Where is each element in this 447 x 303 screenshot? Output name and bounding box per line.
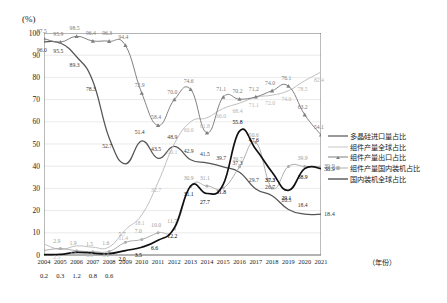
marker-dot-3-6 (140, 238, 143, 241)
data-label-4-16: 38.9 (298, 175, 308, 181)
data-label-4-9: 31.1 (184, 192, 194, 198)
series-line-4 (44, 129, 321, 254)
data-label-3-2: 1.9 (70, 241, 77, 247)
series-line-1 (44, 72, 321, 249)
x-tick-2021: 2021 (310, 258, 332, 265)
chart-root: (%) 0102030405060708090100 2004200520062… (0, 0, 447, 303)
data-label-0-0: 96.0 (37, 48, 47, 54)
legend-item-3[interactable]: 组件产量国内装机占比 (327, 163, 445, 174)
data-label-4-14: 37.3 (265, 178, 275, 184)
marker-dot-3-15 (287, 165, 290, 168)
data-label-1-12: 68.4 (233, 109, 243, 115)
data-label-0-13: 29.7 (249, 178, 259, 184)
data-label-3-3: 1.5 (86, 242, 93, 248)
data-label-3-4: 1.6 (102, 241, 109, 247)
legend-item-4[interactable]: 国内装机全球占比 (327, 173, 445, 184)
data-label-2-0: 97.5 (37, 29, 47, 35)
data-label-4-11: 31.8 (216, 190, 226, 196)
data-label-3-16: 39.9 (298, 156, 308, 162)
data-label-1-8: 50.1 (167, 150, 177, 156)
y-tick-50: 50 (24, 140, 40, 149)
data-label-2-15: 76.1 (281, 76, 291, 82)
data-label-1-17: 82.4 (314, 78, 324, 84)
data-label-1-13: 71.1 (249, 103, 259, 109)
data-label-2-6: 72.9 (135, 83, 145, 89)
marker-dot-3-7 (157, 231, 160, 234)
right-edge-annotation-2: 18.4 (324, 211, 335, 217)
plot-area (44, 33, 321, 255)
legend-item-0[interactable]: 多晶硅进口量占比 (327, 131, 445, 142)
legend-label-4: 国内装机全球占比 (349, 174, 406, 184)
data-label-0-7: 43.5 (151, 147, 161, 153)
marker-dot-3-17 (320, 165, 322, 168)
plot-svg (44, 33, 321, 256)
data-label-1-9: 60.0 (184, 128, 194, 134)
data-label-4-6: 3.5 (135, 253, 142, 259)
data-label-0-9: 42.9 (184, 149, 194, 155)
data-label-1-16: 78.5 (298, 87, 308, 93)
data-label-3-5: 5.7 (118, 232, 125, 238)
data-label-0-3: 78.3 (86, 87, 96, 93)
data-label-2-4: 96.3 (102, 31, 112, 37)
data-label-0-10: 41.5 (200, 152, 210, 158)
legend-swatch-icon-0 (327, 131, 349, 141)
data-label-2-5: 94.4 (118, 35, 128, 41)
y-tick-10: 10 (24, 228, 40, 237)
data-label-1-2: 4.1 (70, 252, 77, 258)
legend-item-1[interactable]: 组件产量全球占比 (327, 142, 445, 153)
data-label-2-13: 71.2 (249, 87, 259, 93)
y-tick-80: 80 (24, 73, 40, 82)
y-tick-70: 70 (24, 95, 40, 104)
data-label-3-6: 7.0 (135, 229, 142, 235)
data-label-1-7: 32.7 (151, 188, 161, 194)
data-label-0-2: 89.3 (70, 63, 80, 69)
data-label-1-10: 61.8 (200, 124, 210, 130)
data-label-2-9: 74.6 (184, 79, 194, 85)
data-label-2-1: 95.9 (53, 32, 63, 38)
legend-swatch-icon-2 (327, 152, 349, 162)
legend-swatch-icon-4 (327, 174, 349, 184)
marker-triangle-2-0 (44, 36, 46, 40)
data-label-1-1: 2.5 (53, 255, 60, 261)
data-label-0-11: 39.7 (216, 156, 226, 162)
y-axis-unit-label: (%) (22, 14, 36, 24)
marker-triangle-2-15 (286, 84, 290, 88)
data-label-0-8: 48.9 (167, 135, 177, 141)
legend-swatch-icon-3 (327, 163, 349, 173)
data-label-2-2: 98.5 (70, 26, 80, 32)
y-tick-30: 30 (24, 184, 40, 193)
data-label-2-8: 70.0 (167, 90, 177, 96)
data-label-4-12: 55.8 (233, 120, 243, 126)
data-label-4-10: 27.7 (200, 200, 210, 206)
legend-label-3: 组件产量国内装机占比 (349, 163, 420, 173)
legend-label-0: 多晶硅进口量占比 (349, 131, 406, 141)
marker-dot-3-1 (59, 247, 62, 250)
data-label-2-17: 54.1 (314, 125, 324, 131)
data-label-1-3: 3.5 (86, 253, 93, 259)
data-label-4-7: 6.6 (151, 246, 158, 252)
data-label-2-11: 71.1 (216, 87, 226, 93)
data-label-1-14: 72.0 (265, 101, 275, 107)
data-label-4-8: 12.2 (167, 234, 177, 240)
data-label-3-10: 31.1 (200, 176, 210, 182)
legend-label-1: 组件产量全球占比 (349, 142, 406, 152)
legend-swatch-icon-1 (327, 142, 349, 152)
data-label-0-6: 51.4 (135, 130, 145, 136)
legend-dot-marker-icon-3 (336, 166, 339, 169)
y-tick-60: 60 (24, 117, 40, 126)
data-label-4-5: 2.0 (118, 257, 125, 263)
legend-item-2[interactable]: 组件产量出口占比 (327, 152, 445, 163)
data-label-3-7: 10.0 (151, 223, 161, 229)
series-line-3 (44, 142, 321, 253)
data-label-0-1: 95.5 (53, 49, 63, 55)
data-label-2-12: 70.2 (233, 89, 243, 95)
data-label-4-15: 29.1 (281, 196, 291, 202)
y-tick-40: 40 (24, 162, 40, 171)
data-label-3-12: 39.7 (233, 157, 243, 163)
legend-label-2: 组件产量出口占比 (349, 152, 406, 162)
data-label-0-4: 52.7 (102, 144, 112, 150)
below-axis-value-4: 0.6 (99, 272, 119, 279)
data-label-3-1: 2.9 (53, 239, 60, 245)
data-label-3-8: 11.7 (167, 219, 177, 225)
data-label-2-3: 96.4 (86, 31, 96, 37)
